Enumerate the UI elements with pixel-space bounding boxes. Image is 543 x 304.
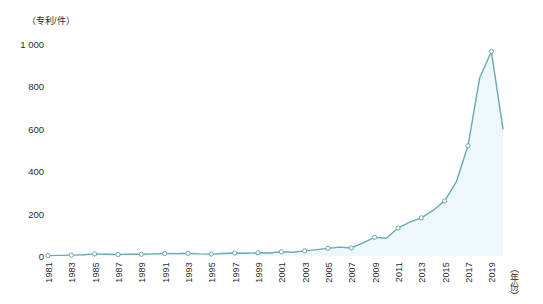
data-point-marker bbox=[443, 199, 447, 203]
plot-area bbox=[0, 0, 543, 304]
data-point-marker bbox=[373, 235, 377, 239]
data-point-marker bbox=[279, 250, 283, 254]
data-point-marker bbox=[256, 251, 260, 255]
data-point-marker bbox=[466, 144, 470, 148]
data-point-marker bbox=[186, 251, 190, 255]
data-point-marker bbox=[349, 246, 353, 250]
data-point-marker bbox=[209, 252, 213, 256]
data-point-marker bbox=[46, 253, 50, 257]
patent-trend-chart: （专利/件） （年份） 02004006008001 000 198119831… bbox=[0, 0, 543, 304]
data-point-marker bbox=[419, 216, 423, 220]
data-point-marker bbox=[69, 253, 73, 257]
data-point-marker bbox=[233, 251, 237, 255]
data-point-marker bbox=[116, 252, 120, 256]
data-point-marker bbox=[139, 252, 143, 256]
data-point-marker bbox=[303, 249, 307, 253]
data-point-marker bbox=[163, 251, 167, 255]
area-fill bbox=[48, 51, 503, 256]
data-point-marker bbox=[489, 49, 493, 53]
data-point-marker bbox=[326, 246, 330, 250]
data-point-marker bbox=[396, 226, 400, 230]
data-point-marker bbox=[93, 252, 97, 256]
